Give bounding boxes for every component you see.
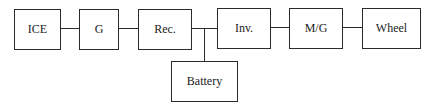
block-inverter: Inv. bbox=[217, 8, 271, 49]
block-label: ICE bbox=[28, 22, 47, 37]
block-wheel: Wheel bbox=[362, 8, 421, 49]
connector-mg-wheel bbox=[342, 27, 362, 28]
powertrain-diagram: ICE G Rec. Inv. M/G Wheel Battery bbox=[0, 0, 433, 108]
block-motor-generator: M/G bbox=[289, 8, 343, 49]
block-generator: G bbox=[79, 9, 119, 50]
block-ice: ICE bbox=[14, 9, 61, 50]
connector-g-rec bbox=[118, 28, 138, 29]
block-label: Battery bbox=[187, 74, 222, 89]
block-label: Rec. bbox=[154, 22, 176, 37]
block-label: Wheel bbox=[376, 21, 407, 36]
block-label: M/G bbox=[305, 21, 328, 36]
connector-ice-g bbox=[60, 28, 79, 29]
block-battery: Battery bbox=[171, 61, 238, 102]
connector-inv-mg bbox=[270, 27, 289, 28]
block-rectifier: Rec. bbox=[138, 9, 192, 50]
connector-junction-battery bbox=[204, 28, 205, 61]
block-label: Inv. bbox=[235, 21, 253, 36]
block-label: G bbox=[95, 22, 104, 37]
